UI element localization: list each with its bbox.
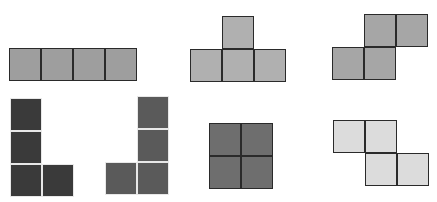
tetromino-cell [222, 16, 254, 49]
tetromino-cell [254, 49, 286, 82]
tetromino-cell [10, 164, 42, 197]
tetromino-cell [364, 14, 396, 47]
tetromino-cell [105, 48, 137, 81]
tetromino-cell [42, 164, 74, 197]
tetromino-cell [190, 49, 222, 82]
tetromino-cell [137, 129, 169, 162]
tetromino-cell [137, 96, 169, 129]
tetromino-cell [365, 153, 397, 186]
tetromino-cell [364, 47, 396, 80]
tetromino-cell [332, 47, 364, 80]
tetromino-cell [41, 48, 73, 81]
tetromino-cell [10, 98, 42, 131]
tetromino-cell [241, 123, 273, 156]
tetromino-cell [9, 48, 41, 81]
tetromino-cell [105, 162, 137, 195]
tetromino-cell [396, 14, 428, 47]
tetromino-cell [209, 123, 241, 156]
tetromino-cell [10, 131, 42, 164]
tetromino-cell [73, 48, 105, 81]
tetromino-cell [209, 156, 241, 189]
tetromino-cell [241, 156, 273, 189]
tetromino-cell [397, 153, 429, 186]
tetromino-cell [365, 120, 397, 153]
tetromino-cell [333, 120, 365, 153]
tetromino-cell [222, 49, 254, 82]
tetromino-cell [137, 162, 169, 195]
